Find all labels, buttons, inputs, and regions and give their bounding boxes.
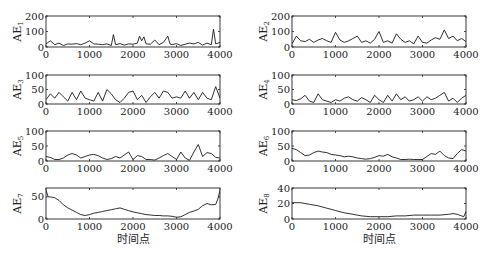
data-line	[292, 148, 466, 159]
panel-ae-8: 0100020003000400002040AE8时间点	[257, 183, 479, 247]
y-axis-label: AE3	[11, 79, 25, 100]
y-axis-label: AE4	[257, 79, 271, 101]
x-tick-label: 4000	[207, 221, 232, 232]
y-tick-label: 100	[25, 126, 44, 137]
x-tick-label: 2000	[120, 163, 145, 174]
x-tick-label: 2000	[366, 49, 391, 60]
data-line	[292, 92, 466, 102]
x-tick-label: 2000	[366, 163, 391, 174]
x-tick-label: 3000	[410, 163, 435, 174]
y-tick-label: 200	[25, 11, 44, 22]
x-axis-label: 时间点	[363, 233, 396, 246]
x-tick-label: 4000	[453, 221, 478, 232]
x-tick-label: 1000	[323, 163, 348, 174]
y-axis-label: AE7	[11, 193, 25, 214]
y-tick-label: 50	[277, 141, 290, 152]
x-tick-label: 4000	[207, 163, 232, 174]
x-tick-label: 3000	[410, 221, 435, 232]
data-line	[46, 145, 220, 161]
x-tick-label: 3000	[164, 49, 189, 60]
x-tick-label: 2000	[366, 106, 391, 117]
y-tick-label: 50	[277, 84, 290, 95]
y-tick-label: 0	[38, 214, 44, 225]
panel-ae-4: 01000200030004000050100AE4	[257, 70, 479, 118]
x-tick-label: 2000	[366, 221, 391, 232]
y-tick-label: 0	[284, 214, 290, 225]
data-line	[46, 190, 220, 217]
y-tick-label: 100	[271, 26, 290, 37]
panel-ae-3: 01000200030004000050100AE3	[11, 70, 233, 118]
y-axis-label: AE1	[11, 21, 25, 42]
y-tick-label: 0	[284, 156, 290, 167]
y-tick-label: 100	[271, 70, 290, 81]
axes-box	[46, 75, 220, 104]
x-tick-label: 3000	[164, 163, 189, 174]
x-tick-label: 3000	[410, 106, 435, 117]
x-tick-label: 2000	[120, 221, 145, 232]
y-tick-label: 0	[38, 99, 44, 110]
panel-ae-6: 01000200030004000050100AE6	[257, 126, 479, 175]
data-line	[46, 87, 220, 103]
panel-ae-2: 010002000300040000100200AE2	[257, 11, 479, 61]
axes-box	[46, 188, 220, 219]
y-tick-label: 50	[31, 141, 44, 152]
ae-multipanel-chart: 010002000300040000100200AE10100020003000…	[0, 0, 482, 254]
x-tick-label: 2000	[120, 49, 145, 60]
axes-box	[292, 131, 466, 161]
axes-box	[46, 16, 220, 47]
x-axis-label: 时间点	[117, 233, 150, 246]
y-tick-label: 0	[284, 99, 290, 110]
y-tick-label: 0	[38, 42, 44, 53]
panel-ae-1: 010002000300040000100200AE1	[11, 11, 233, 61]
y-tick-label: 100	[271, 126, 290, 137]
y-tick-label: 100	[25, 26, 44, 37]
y-tick-label: 0	[284, 42, 290, 53]
y-tick-label: 50	[31, 84, 44, 95]
x-tick-label: 4000	[207, 106, 232, 117]
x-tick-label: 1000	[323, 49, 348, 60]
x-tick-label: 3000	[164, 221, 189, 232]
x-tick-label: 2000	[120, 106, 145, 117]
x-tick-label: 4000	[207, 49, 232, 60]
x-tick-label: 1000	[77, 163, 102, 174]
data-line	[46, 29, 220, 45]
data-line	[292, 203, 466, 217]
x-tick-label: 1000	[323, 221, 348, 232]
x-tick-label: 3000	[410, 49, 435, 60]
x-tick-label: 4000	[453, 49, 478, 60]
y-axis-label: AE8	[257, 193, 271, 214]
axes-box	[46, 131, 220, 161]
x-tick-label: 3000	[164, 106, 189, 117]
x-tick-label: 1000	[323, 106, 348, 117]
y-tick-label: 50	[31, 191, 44, 202]
y-tick-label: 40	[277, 183, 290, 194]
x-tick-label: 1000	[77, 106, 102, 117]
y-tick-label: 20	[277, 198, 290, 209]
axes-box	[292, 188, 466, 219]
y-axis-label: AE2	[257, 21, 271, 42]
y-tick-label: 100	[25, 70, 44, 81]
y-axis-label: AE5	[11, 136, 25, 157]
y-axis-label: AE6	[257, 135, 271, 157]
y-tick-label: 0	[38, 156, 44, 167]
x-tick-label: 1000	[77, 221, 102, 232]
x-tick-label: 4000	[453, 106, 478, 117]
panel-ae-5: 01000200030004000050100AE5	[11, 126, 233, 175]
x-tick-label: 1000	[77, 49, 102, 60]
panel-ae-7: 01000200030004000050AE7时间点	[11, 188, 233, 246]
x-tick-label: 4000	[453, 163, 478, 174]
data-line	[292, 30, 466, 44]
y-tick-label: 200	[271, 11, 290, 22]
